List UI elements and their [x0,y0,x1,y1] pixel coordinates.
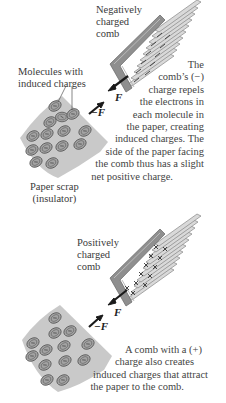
comb-label-positive: Positively charged comb [77,237,119,273]
molecules-label: Molecules with induced charges [18,66,86,90]
label-line: Positively [77,237,119,249]
label-line: (insulator) [30,193,79,205]
label-line: Paper scrap [30,181,79,193]
caption-line: charge repels [95,84,204,96]
label-line: charged [96,16,142,28]
caption-bottom: A comb with a (+) charge also creates in… [90,344,208,394]
caption-line: each molecule in [95,109,204,121]
caption-line: the paper, creating [95,121,204,133]
caption-line: comb’s (−) [95,71,204,83]
caption-line: charge also creates [90,356,194,368]
caption-line: the electrons in [95,96,204,108]
caption-line: net positive charge. [91,171,204,183]
label-line: charged [77,249,119,261]
caption-top: The comb’s (−) charge repels the electro… [95,59,204,183]
caption-line: induced charges. The [95,133,204,145]
paper-scrap-label: Paper scrap (insulator) [30,181,79,205]
force-label-f: F [114,306,121,318]
label-line: comb [77,261,119,273]
caption-line: side of the paper facing [95,146,204,158]
caption-line: the paper to the comb. [90,381,184,393]
caption-line: the comb thus has a slight [95,158,204,170]
caption-line: A comb with a (+) [90,344,202,356]
caption-line: The [95,59,204,71]
label-line: Molecules with [18,66,86,78]
force-label-neg-f: −F [94,320,108,332]
caption-line: induced charges that attract [90,369,208,381]
label-line: comb [96,28,142,40]
label-line: induced charges [18,78,86,90]
comb-label-negative: Negatively charged comb [96,4,142,40]
label-line: Negatively [96,4,142,16]
